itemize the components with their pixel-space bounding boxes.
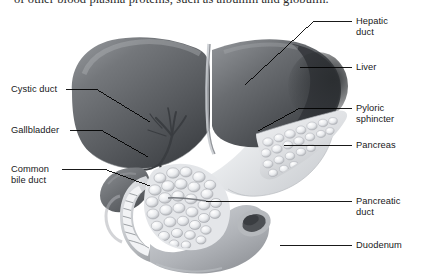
label-liver: Liver [356,62,376,73]
label-cystic-duct: Cystic duct [11,84,57,95]
figure-page: of other blood plasma proteins, such as … [0,0,435,280]
label-pancreatic-duct: Pancreatic duct [356,196,400,217]
label-gallbladder: Gallbladder [11,125,59,136]
label-common-bile-duct: Common bile duct [11,164,49,185]
label-pyloric-sphincter: Pyloric sphincter [356,103,394,124]
label-duodenum: Duodenum [356,240,402,251]
label-hepatic-duct: Hepatic duct [356,16,388,37]
label-pancreas: Pancreas [356,140,396,151]
